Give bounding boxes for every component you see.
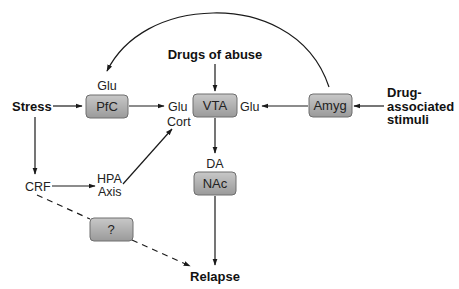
- pfc-label: PfC: [96, 99, 118, 114]
- glu-above-pfc-label: Glu: [97, 79, 117, 93]
- drugs-of-abuse-label: Drugs of abuse: [168, 47, 263, 62]
- cort-label: Cort: [167, 115, 191, 129]
- drug-associated-label-line1: Drug-: [387, 85, 422, 100]
- addiction-relapse-diagram: PfC VTA Amyg NAc ? Stress Drugs of abuse…: [0, 0, 459, 289]
- drug-associated-label-line3: stimuli: [387, 112, 429, 127]
- hpa-label-line2: Axis: [98, 185, 122, 199]
- da-label: DA: [206, 157, 224, 171]
- node-vta: VTA: [193, 94, 237, 117]
- nac-label: NAc: [203, 176, 228, 191]
- node-nac: NAc: [194, 172, 236, 195]
- amyg-label: Amyg: [313, 98, 346, 113]
- edge-crf-to-unknown: [37, 195, 90, 219]
- relapse-label: Relapse: [190, 269, 240, 284]
- node-amyg: Amyg: [309, 94, 352, 117]
- crf-label: CRF: [25, 180, 51, 194]
- unknown-label: ?: [107, 222, 114, 237]
- hpa-label-line1: HPA: [97, 172, 122, 186]
- node-unknown: ?: [90, 218, 133, 241]
- edge-unknown-to-relapse: [132, 240, 190, 266]
- glu-left-vta-label: Glu: [168, 100, 188, 114]
- node-pfc: PfC: [86, 95, 128, 118]
- edge-hpa-to-cort: [123, 129, 172, 184]
- glu-right-vta-label: Glu: [240, 100, 260, 114]
- stress-label: Stress: [12, 99, 52, 114]
- vta-label: VTA: [203, 98, 228, 113]
